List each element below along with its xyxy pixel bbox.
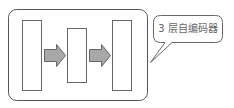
callout-label: 3 层自编码器 xyxy=(153,22,223,36)
input-layer-box xyxy=(23,21,42,91)
autoencoder-diagram xyxy=(0,0,234,108)
output-layer-box xyxy=(113,21,132,91)
hidden-layer-box xyxy=(68,29,87,83)
